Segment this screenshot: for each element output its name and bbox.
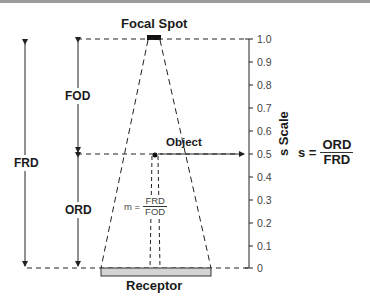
scale-formula: s = ORDFRD (298, 138, 353, 168)
formula-lhs: s = (298, 145, 316, 160)
receptor-plate (101, 268, 211, 276)
tick-label: 0.6 (257, 125, 272, 137)
tick-label: 0 (257, 262, 263, 274)
fod-label: FOD (65, 88, 90, 104)
formula-denominator: FOD (143, 207, 167, 217)
tick-label: 0.4 (257, 171, 272, 183)
tick-label: 0.2 (257, 217, 272, 229)
tick-label: 0.5 (257, 148, 272, 160)
frd-label: FRD (14, 155, 39, 171)
receptor-label: Receptor (126, 278, 182, 293)
tick-label: 0.3 (257, 194, 272, 206)
tick-label: 1.0 (257, 33, 272, 45)
focal-spot-label: Focal Spot (121, 16, 187, 31)
ord-label: ORD (65, 202, 92, 218)
magnification-diagram: Focal Spot Object Receptor FOD ORD FRD 1… (0, 0, 370, 302)
scale-axis-label: s Scale (276, 111, 291, 156)
formula-lhs: m = (124, 201, 140, 212)
tick-label: 0.9 (257, 56, 272, 68)
object-label: Object (166, 136, 202, 148)
tick-label: 0.7 (257, 102, 272, 114)
tick-label: 0.1 (257, 240, 272, 252)
formula-denominator: FRD (322, 153, 353, 167)
magnification-formula: m = FRDFOD (124, 196, 167, 218)
tick-label: 0.8 (257, 79, 272, 91)
formula-numerator: ORD (320, 138, 353, 153)
